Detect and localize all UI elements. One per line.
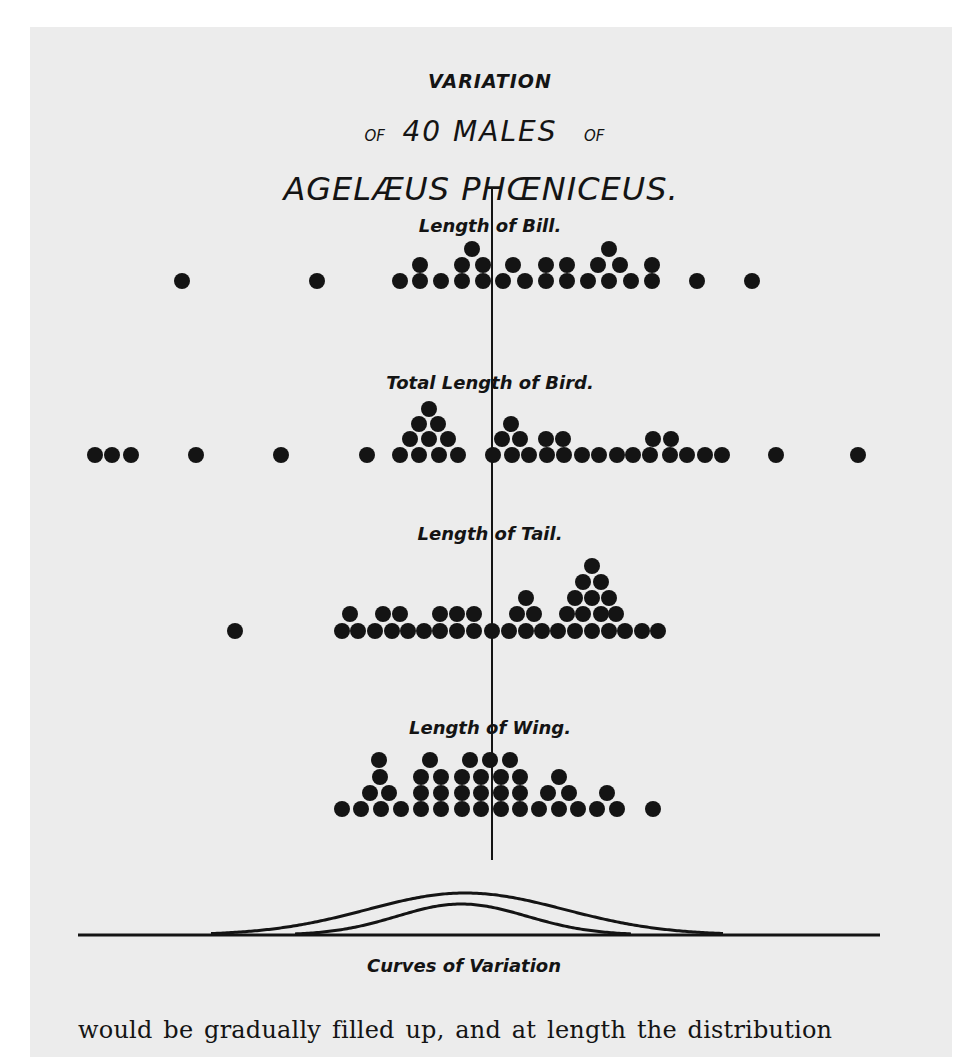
- dots-wing: [334, 752, 661, 817]
- dots-total-length: [87, 401, 866, 463]
- data-dot: [590, 257, 606, 273]
- data-dot: [466, 623, 482, 639]
- data-dot: [433, 769, 449, 785]
- data-dot: [384, 623, 400, 639]
- data-dot: [473, 801, 489, 817]
- data-dot: [744, 273, 760, 289]
- data-dot: [432, 606, 448, 622]
- data-dot: [697, 447, 713, 463]
- data-dot: [342, 606, 358, 622]
- data-dot: [381, 785, 397, 801]
- title-line-2-prefix: OF: [365, 127, 386, 145]
- data-dot: [413, 785, 429, 801]
- data-dot: [609, 801, 625, 817]
- data-dot: [505, 257, 521, 273]
- data-dot: [580, 273, 596, 289]
- data-dot: [359, 447, 375, 463]
- data-dot: [373, 801, 389, 817]
- data-dot: [466, 606, 482, 622]
- data-dot: [454, 769, 470, 785]
- data-dot: [412, 257, 428, 273]
- title-line-1: VARIATION: [428, 70, 552, 92]
- data-dot: [413, 769, 429, 785]
- variation-figure: VARIATION OF 40 MALES OF AGELÆUS PHŒNICE…: [0, 0, 979, 1057]
- data-dot: [574, 447, 590, 463]
- data-dot: [367, 623, 383, 639]
- data-dot: [591, 447, 607, 463]
- data-dot: [601, 623, 617, 639]
- data-dot: [512, 785, 528, 801]
- data-dot: [412, 273, 428, 289]
- data-dot: [679, 447, 695, 463]
- data-dot: [644, 257, 660, 273]
- data-dot: [482, 752, 498, 768]
- data-dot: [662, 447, 678, 463]
- data-dot: [593, 574, 609, 590]
- data-dot: [601, 273, 617, 289]
- data-dot: [642, 447, 658, 463]
- data-dot: [273, 447, 289, 463]
- data-dot: [454, 257, 470, 273]
- data-dot: [309, 273, 325, 289]
- data-dot: [464, 241, 480, 257]
- data-dot: [433, 273, 449, 289]
- data-dot: [353, 801, 369, 817]
- data-dot: [599, 785, 615, 801]
- data-dot: [663, 431, 679, 447]
- data-dot: [526, 606, 542, 622]
- data-dot: [493, 769, 509, 785]
- title-line-2-suffix: OF: [584, 127, 605, 145]
- data-dot: [416, 623, 432, 639]
- data-dot: [551, 801, 567, 817]
- data-dot: [473, 785, 489, 801]
- data-dot: [371, 752, 387, 768]
- data-dot: [392, 606, 408, 622]
- data-dot: [334, 801, 350, 817]
- data-dot: [400, 623, 416, 639]
- data-dot: [575, 574, 591, 590]
- data-dot: [431, 447, 447, 463]
- data-dot: [504, 447, 520, 463]
- data-dot: [551, 769, 567, 785]
- data-dot: [567, 623, 583, 639]
- data-dot: [454, 785, 470, 801]
- data-dot: [87, 447, 103, 463]
- data-dot: [555, 431, 571, 447]
- data-dot: [430, 416, 446, 432]
- data-dot: [538, 273, 554, 289]
- data-dot: [449, 606, 465, 622]
- data-dot: [484, 623, 500, 639]
- data-dot: [593, 606, 609, 622]
- data-dot: [450, 447, 466, 463]
- data-dot: [645, 801, 661, 817]
- data-dot: [454, 801, 470, 817]
- data-dot: [570, 801, 586, 817]
- data-dot: [768, 447, 784, 463]
- data-dot: [421, 401, 437, 417]
- data-dot: [518, 623, 534, 639]
- data-dot: [623, 273, 639, 289]
- data-dot: [608, 606, 624, 622]
- data-dot: [539, 447, 555, 463]
- data-dot: [104, 447, 120, 463]
- data-dot: [392, 447, 408, 463]
- data-dot: [485, 447, 501, 463]
- data-dot: [559, 606, 575, 622]
- data-dot: [501, 623, 517, 639]
- data-dot: [393, 801, 409, 817]
- data-dot: [645, 431, 661, 447]
- data-dot: [540, 785, 556, 801]
- data-dot: [521, 447, 537, 463]
- series-label-total-length: Total Length of Bird.: [386, 372, 594, 393]
- data-dot: [561, 785, 577, 801]
- data-dot: [512, 769, 528, 785]
- data-dot: [493, 801, 509, 817]
- data-dot: [493, 785, 509, 801]
- data-dot: [584, 590, 600, 606]
- data-dot: [559, 273, 575, 289]
- title-line-3: AGELÆUS PHŒNICEUS.: [281, 170, 678, 208]
- dots-tail: [227, 558, 666, 639]
- data-dot: [495, 273, 511, 289]
- data-dot: [584, 558, 600, 574]
- data-dot: [625, 447, 641, 463]
